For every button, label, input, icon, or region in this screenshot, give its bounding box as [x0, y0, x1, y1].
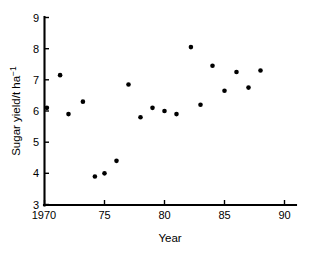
- data-point: [93, 174, 98, 179]
- data-point: [234, 70, 239, 75]
- y-tick-label: 8: [33, 43, 39, 55]
- data-point: [126, 82, 131, 87]
- x-tick-label: 80: [158, 209, 170, 221]
- data-point: [210, 63, 215, 68]
- x-tick-label: 1970: [32, 209, 56, 221]
- x-axis-title: Year: [158, 232, 181, 244]
- y-tick-label: 9: [33, 12, 39, 24]
- data-point: [102, 171, 107, 176]
- data-point: [174, 112, 179, 117]
- data-point: [222, 88, 227, 93]
- data-point: [45, 106, 50, 111]
- y-axis-title: Sugar yield/t ha−1: [8, 66, 22, 156]
- data-point: [162, 109, 167, 114]
- y-tick-label: 4: [33, 167, 39, 179]
- y-tick-label: 5: [33, 136, 39, 148]
- x-tick-label: 75: [98, 209, 110, 221]
- data-point: [246, 85, 251, 90]
- data-point: [81, 99, 86, 104]
- y-tick-label: 7: [33, 74, 39, 86]
- data-point: [66, 112, 71, 117]
- data-point: [138, 115, 143, 120]
- data-point: [198, 102, 203, 107]
- data-point: [114, 159, 119, 164]
- x-tick-label: 85: [218, 209, 230, 221]
- y-axis-title-exponent: −1: [8, 66, 18, 76]
- data-point: [150, 106, 155, 111]
- y-axis-tick-labels: 9 8 7 6 5 4 3: [33, 12, 39, 211]
- scatter-chart-figure: 9 8 7 6 5 4 3 1970 75 80 85 90 Year: [0, 0, 318, 253]
- x-tick-label: 90: [278, 209, 290, 221]
- chart-canvas: 9 8 7 6 5 4 3 1970 75 80 85 90 Year: [0, 0, 318, 253]
- data-point: [189, 45, 194, 50]
- y-axis-title-text: Sugar yield/t ha: [10, 75, 22, 156]
- svg-text:Sugar yield/t ha−1: Sugar yield/t ha−1: [8, 66, 22, 156]
- y-tick-label: 6: [33, 105, 39, 117]
- x-axis-tick-labels: 1970 75 80 85 90: [32, 209, 291, 221]
- scatter-points-group: [45, 45, 263, 179]
- data-point: [58, 73, 63, 78]
- data-point: [258, 68, 263, 73]
